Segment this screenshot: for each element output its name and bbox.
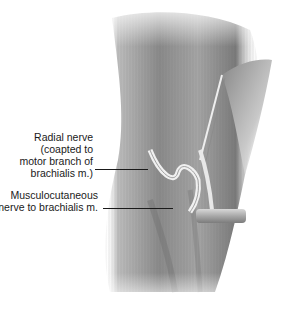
musculocutaneous-nerve-leader-line (103, 208, 173, 209)
label-line: motor branch of (19, 155, 93, 167)
label-line: nerve to brachialis m. (0, 201, 98, 213)
label-line: Musculocutaneous (0, 189, 98, 201)
label-line: brachialis m.) (19, 167, 93, 179)
label-line: Radial nerve (19, 131, 93, 143)
musculocutaneous-nerve-label: Musculocutaneous nerve to brachialis m. (0, 189, 98, 213)
label-line: (coapted to (19, 143, 93, 155)
radial-nerve-label: Radial nerve (coapted to motor branch of… (19, 131, 93, 179)
radial-nerve-leader-line (95, 169, 148, 170)
